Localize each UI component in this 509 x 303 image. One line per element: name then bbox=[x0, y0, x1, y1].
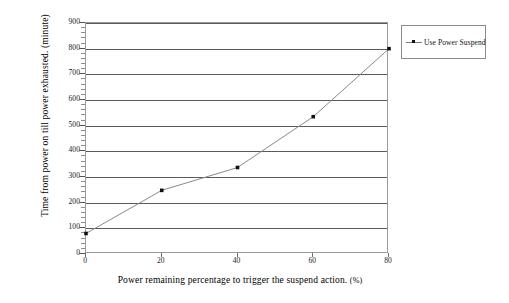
y-axis-tick-label: 100 bbox=[48, 223, 80, 231]
y-axis-tick-label: 300 bbox=[48, 172, 80, 180]
y-axis-tick-labels: 0100200300400500600700800900 bbox=[44, 22, 80, 253]
legend-item-label: Use Power Suspend bbox=[424, 38, 486, 47]
legend: Use Power Suspend bbox=[401, 25, 486, 59]
y-axis-tick-label: 200 bbox=[48, 198, 80, 206]
x-axis-tick-label: 40 bbox=[222, 257, 252, 265]
legend-marker-icon bbox=[406, 39, 422, 46]
y-axis-tick-label: 900 bbox=[48, 18, 80, 26]
x-axis-title: Power remaining percentage to trigger th… bbox=[30, 275, 450, 286]
x-axis-tick-label: 80 bbox=[373, 257, 403, 265]
data-point-marker bbox=[311, 115, 315, 119]
x-axis-tick-label: 20 bbox=[146, 257, 176, 265]
data-point-marker bbox=[160, 189, 164, 193]
chart-container: Time from power on till power exhausted.… bbox=[0, 0, 509, 303]
series-markers-use-power-suspend bbox=[84, 47, 391, 235]
y-axis-tick-label: 700 bbox=[48, 69, 80, 77]
data-point-marker bbox=[84, 232, 88, 236]
data-point-marker bbox=[236, 166, 240, 170]
series-layer bbox=[86, 23, 389, 254]
y-axis-tick-label: 0 bbox=[48, 249, 80, 257]
x-axis-tick-label: 0 bbox=[70, 257, 100, 265]
x-axis-tick-label: 60 bbox=[297, 257, 327, 265]
y-axis-tick-label: 400 bbox=[48, 146, 80, 154]
y-axis-tick-label: 800 bbox=[48, 44, 80, 52]
series-line-use-power-suspend bbox=[86, 49, 389, 234]
x-axis-title-unit: (%) bbox=[350, 276, 362, 285]
x-axis-title-text: Power remaining percentage to trigger th… bbox=[118, 275, 348, 285]
y-axis-tick-label: 600 bbox=[48, 95, 80, 103]
data-point-marker bbox=[387, 47, 391, 51]
plot-area bbox=[85, 22, 388, 253]
y-axis-tick-label: 500 bbox=[48, 121, 80, 129]
legend-item: Use Power Suspend bbox=[406, 38, 486, 47]
x-axis-tick-labels: 020406080 bbox=[85, 257, 388, 269]
